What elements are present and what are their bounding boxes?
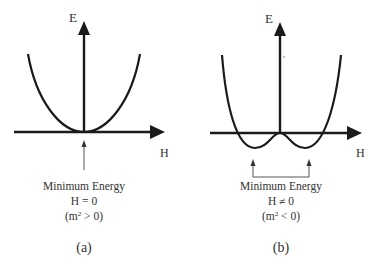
annotation-b-line3: (m2 < 0) [262,210,300,223]
annotation-b-line2: H ≠ 0 [268,195,294,207]
y-axis-label-b: E [265,11,273,26]
x-axis-label-a: H [160,146,169,160]
x-axis-arrow-icon [347,126,362,140]
pointer-arrow-icon [307,159,312,166]
higgs-potential-diagram: E H Minimum Energy H = 0 (m2 > 0) (a) E … [0,0,372,271]
pointer-arrow-icon [251,159,256,166]
panel-b: E H Minimum Energy H ≠ 0 (m2 < 0) (b) [210,11,365,256]
caption-a: (a) [76,240,92,256]
annotation-a-line1: Minimum Energy [43,180,125,193]
y-axis-arrow-icon [274,22,286,36]
annotation-a-line3: (m2 > 0) [65,210,103,223]
minimum-bracket-b [253,165,309,177]
speck-dot [283,56,285,58]
pointer-arrow-icon [82,140,87,147]
x-axis-label-b: H [356,146,365,160]
caption-b: (b) [273,240,290,256]
panel-a: E H Minimum Energy H = 0 (m2 > 0) (a) [14,10,169,256]
x-axis-arrow-icon [150,125,165,139]
y-axis-arrow-icon [78,21,90,35]
annotation-b-line1: Minimum Energy [240,180,322,193]
annotation-a-line2: H = 0 [71,195,98,207]
y-axis-label-a: E [69,10,77,25]
